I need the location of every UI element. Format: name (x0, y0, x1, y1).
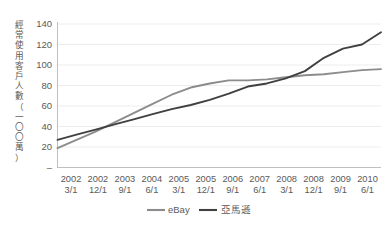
y-tick-label: 100 (36, 59, 52, 70)
x-tick-label-date: 12/1 (89, 185, 107, 195)
y-axis-title-char: 戶 (15, 70, 24, 81)
x-tick-label-year: 2009 (330, 174, 351, 184)
y-tick-label: – (47, 162, 53, 173)
y-axis-title-char: 客 (15, 60, 24, 71)
y-axis-title-char: 使 (15, 39, 24, 50)
x-tick-label-year: 2004 (142, 174, 163, 184)
y-axis-title: 經常使用客戶人數（一〇〇萬） (15, 19, 24, 163)
y-axis-title-char: （ (15, 102, 24, 112)
y-tick-label: 80 (41, 80, 52, 91)
x-tick-label-date: 6/1 (253, 185, 266, 195)
x-tick-label-year: 2007 (249, 174, 270, 184)
line-chart: 14012010080604020– 經常使用客戶人數（一〇〇萬） 20023/… (0, 0, 391, 232)
x-tick-label-year: 2005 (168, 174, 189, 184)
x-tick-label-year: 2008 (276, 174, 297, 184)
chart-background (0, 0, 391, 232)
x-tick-label-date: 9/1 (118, 185, 131, 195)
y-axis-title-char: 用 (15, 51, 24, 61)
x-tick-label-date: 3/1 (65, 185, 78, 195)
y-tick-label: 40 (41, 121, 52, 132)
x-tick-label-date: 12/1 (305, 185, 323, 195)
x-tick-label-date: 12/1 (197, 185, 215, 195)
y-axis-title-char: 〇 (15, 132, 24, 142)
y-tick-label: 20 (41, 141, 52, 152)
x-tick-label-year: 2005 (195, 174, 216, 184)
y-tick-label: 140 (36, 18, 52, 29)
y-axis-title-char: 數 (15, 90, 24, 101)
x-tick-label-year: 2002 (61, 174, 82, 184)
x-tick-label-date: 9/1 (334, 185, 347, 195)
x-tick-label-year: 2008 (303, 174, 324, 184)
y-axis-title-char: 人 (15, 81, 24, 91)
y-axis-title-char: ） (15, 153, 24, 163)
y-tick-label: 60 (41, 100, 52, 111)
chart-container: 14012010080604020– 經常使用客戶人數（一〇〇萬） 20023/… (0, 0, 391, 232)
y-axis-title-char: 萬 (15, 141, 24, 152)
x-tick-label-year: 2003 (115, 174, 136, 184)
x-tick-label-date: 9/1 (226, 185, 239, 195)
x-tick-label-date: 6/1 (361, 185, 374, 195)
x-tick-label-date: 6/1 (145, 185, 158, 195)
y-axis-title-char: 常 (15, 29, 24, 40)
legend-label: 亞馬遜 (221, 204, 251, 215)
y-axis-title-char: 〇 (15, 122, 24, 132)
x-tick-label-year: 2006 (222, 174, 243, 184)
y-axis-title-char: 一 (15, 112, 24, 122)
y-tick-label: 120 (36, 39, 52, 50)
x-tick-label-date: 3/1 (172, 185, 185, 195)
y-axis-title-char: 經 (15, 19, 24, 30)
x-tick-label-date: 3/1 (280, 185, 293, 195)
x-tick-label-year: 2010 (357, 174, 378, 184)
legend-label: eBay (168, 204, 190, 215)
x-tick-label-year: 2002 (88, 174, 109, 184)
